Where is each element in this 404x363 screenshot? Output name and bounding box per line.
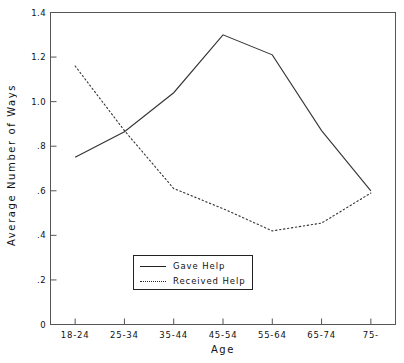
x-tick-label: 75-	[363, 330, 379, 340]
dotted-line-icon	[140, 276, 166, 286]
x-axis-title: Age	[50, 344, 396, 355]
legend-label: Received Help	[173, 276, 245, 286]
series-line-received-help	[75, 66, 371, 231]
x-tick-label: 18-24	[61, 330, 90, 340]
solid-line-icon	[140, 261, 166, 271]
series-line-gave-help	[75, 35, 371, 191]
legend-item-gave-help: Gave Help	[134, 258, 252, 273]
legend-item-received-help: Received Help	[134, 273, 252, 288]
plot-area	[0, 0, 404, 363]
x-tick-label: 45-54	[209, 330, 238, 340]
x-tick-label: 55-64	[258, 330, 287, 340]
x-tick-label: 65-74	[307, 330, 336, 340]
legend: Gave Help Received Help	[133, 255, 253, 290]
x-tick-label: 35-44	[159, 330, 188, 340]
x-tick-label: 25-34	[110, 330, 139, 340]
line-chart: Average Number of Ways 0.2.4.6.81.01.21.…	[0, 0, 404, 363]
y-axis-ticks	[51, 13, 57, 325]
legend-label: Gave Help	[173, 261, 225, 271]
x-axis-ticks	[75, 319, 371, 325]
